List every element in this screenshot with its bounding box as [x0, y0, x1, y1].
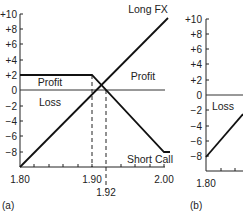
y-tick-label: +6 [191, 44, 203, 55]
long-fx-line [20, 18, 168, 167]
y-tick-label: +10 [185, 14, 202, 25]
y-tick-label: −4 [191, 121, 203, 132]
y-tick-label: +6 [6, 39, 18, 50]
x-tick-label: 2.00 [154, 174, 174, 185]
y-tick-label: +4 [6, 55, 18, 66]
combined-payoff-line [206, 114, 243, 157]
x-tick-label: 1.80 [196, 178, 216, 189]
y-tick-label: −8 [191, 151, 203, 162]
y-tick-label: +2 [191, 75, 203, 86]
panel-label-b: (b) [190, 200, 202, 211]
x-tick-label: 1.80 [10, 174, 30, 185]
loss-label: Loss [39, 96, 61, 108]
y-tick-label: +8 [191, 29, 203, 40]
panel-b: +10 +8 +6 +4 +2 0 −2 −4 −6 −8 1.80 Loss … [185, 14, 243, 211]
y-tick-label: 0 [196, 90, 202, 101]
y-tick-label: +2 [6, 70, 18, 81]
y-tick-label: −6 [191, 136, 203, 147]
panel-a: +10 +8 +6 +4 +2 0 −2 −4 −6 −8 1.80 1.90 … [0, 3, 174, 211]
y-tick-label: −2 [6, 101, 18, 112]
payoff-charts: +10 +8 +6 +4 +2 0 −2 −4 −6 −8 1.80 1.90 … [0, 0, 243, 211]
x-tick-label: 1.90 [82, 174, 102, 185]
y-tick-label: −8 [6, 147, 18, 158]
y-tick-label: −6 [6, 131, 18, 142]
panel-label-a: (a) [2, 200, 14, 211]
y-tick-label: +10 [0, 9, 17, 20]
y-tick-label: +8 [6, 24, 18, 35]
profit-label: Profit [38, 76, 63, 88]
y-tick-label: +4 [191, 59, 203, 70]
y-tick-label: −2 [191, 105, 203, 116]
profit-label-right: Profit [131, 70, 156, 82]
y-tick-label: −4 [6, 116, 18, 127]
loss-label: Loss [212, 100, 234, 112]
long-fx-label: Long FX [128, 3, 168, 15]
short-call-label: Short Call [127, 153, 173, 165]
y-tick-label: 0 [11, 85, 17, 96]
